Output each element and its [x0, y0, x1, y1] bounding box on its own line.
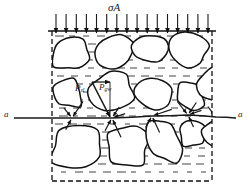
- section-label-a-left: a: [4, 110, 9, 119]
- contact-force-arrow: [105, 120, 111, 131]
- grain-low-left: [50, 125, 100, 168]
- grain-top-right: [169, 32, 210, 68]
- contact-force-arrow: [218, 113, 228, 117]
- diagram-canvas: [0, 0, 250, 196]
- section-label-a-right: a: [238, 110, 243, 119]
- grain-low-far-right: [201, 121, 225, 146]
- force-label-tangential-sub: sl: [81, 87, 85, 93]
- applied-load-arrows: [56, 14, 208, 33]
- contact-force-arrow: [217, 102, 226, 115]
- contact-force-arrow: [208, 107, 215, 116]
- grain-low-center: [107, 126, 149, 166]
- contact-force-arrow: [64, 108, 71, 117]
- figure-effective-stress: σA a a Psl Pgw: [0, 0, 250, 196]
- force-label-tangential: Psl: [75, 84, 85, 93]
- grain-top-mid: [131, 36, 168, 62]
- grain-low-mid: [146, 120, 183, 163]
- grain-top-mid-left: [95, 35, 134, 69]
- force-label-normal: Pgw: [99, 83, 112, 92]
- grain-mid-right: [134, 78, 172, 110]
- grain-top-left: [52, 37, 89, 68]
- force-label-normal-sub: gw: [105, 86, 112, 92]
- applied-stress-label: σA: [108, 2, 120, 13]
